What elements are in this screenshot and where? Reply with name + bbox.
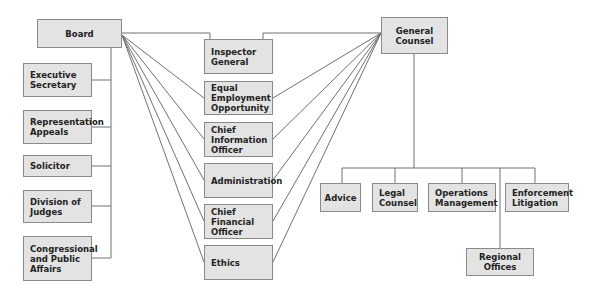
solicitor-box: Solicitor [23, 155, 92, 177]
regional-offices-label: Regional Offices [473, 252, 527, 272]
solicitor-label: Solicitor [30, 161, 70, 171]
administration-box: Administration [204, 163, 273, 198]
division-of-judges-box: Division of Judges [23, 190, 92, 223]
cio-box: Chief Information Officer [204, 122, 273, 157]
regional-offices-box: Regional Offices [466, 248, 534, 276]
eeo-label: Equal Employment Opportunity [211, 83, 271, 113]
eeo-box: Equal Employment Opportunity [204, 81, 273, 115]
administration-label: Administration [211, 176, 282, 186]
operations-management-box: Operations Management [428, 183, 496, 212]
executive-secretary-box: Executive Secretary [23, 63, 92, 97]
ethics-box: Ethics [204, 245, 273, 280]
cio-label: Chief Information Officer [211, 125, 267, 155]
legal-counsel-box: Legal Counsel [372, 183, 418, 212]
cfo-box: Chief Financial Officer [204, 204, 273, 239]
cfo-label: Chief Financial Officer [211, 207, 254, 237]
congressional-public-affairs-box: Congressional and Public Affairs [23, 236, 92, 281]
board-box: Board [37, 19, 122, 48]
board-label: Board [65, 29, 93, 39]
legal-counsel-label: Legal Counsel [379, 188, 417, 208]
operations-management-label: Operations Management [435, 188, 498, 208]
representation-appeals-box: Representation Appeals [23, 110, 92, 144]
inspector-general-label: Inspector General [211, 47, 256, 67]
enforcement-litigation-box: Enforcement Litigation [505, 183, 569, 212]
division-of-judges-label: Division of Judges [30, 197, 81, 217]
executive-secretary-label: Executive Secretary [30, 70, 76, 90]
enforcement-litigation-label: Enforcement Litigation [512, 188, 573, 208]
advice-box: Advice [320, 183, 361, 212]
general-counsel-label: General Counsel [396, 26, 434, 46]
congressional-public-affairs-label: Congressional and Public Affairs [30, 244, 98, 274]
general-counsel-box: General Counsel [381, 17, 448, 54]
advice-label: Advice [325, 193, 357, 203]
ethics-label: Ethics [211, 258, 240, 268]
inspector-general-box: Inspector General [204, 39, 273, 74]
representation-appeals-label: Representation Appeals [30, 117, 104, 137]
